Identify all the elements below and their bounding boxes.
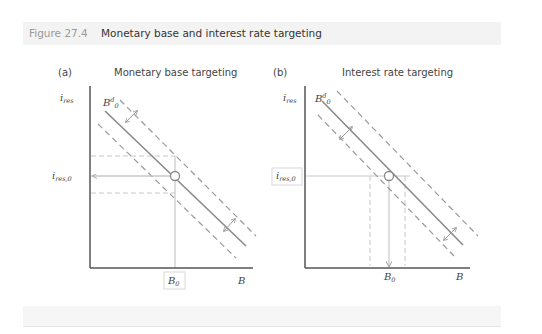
curve-label-bd0: Bd0 — [314, 92, 331, 106]
demand-upper-dashed — [120, 100, 256, 236]
panel-a-letter: (a) — [58, 67, 72, 78]
equilibrium-point-marker — [385, 172, 394, 181]
equilibrium-point-marker — [171, 172, 180, 181]
diagram-canvas: (a) Monetary base targeting ires Bd0 ire… — [0, 0, 542, 334]
x-axis-label: B — [455, 271, 463, 282]
shift-arrow-bottom-icon — [444, 228, 456, 240]
equilibrium-rate-label: ires,0 — [52, 170, 72, 183]
monetary-base-label: B0 — [383, 271, 396, 284]
demand-lower-dashed — [98, 124, 236, 258]
y-axis-label: ires — [60, 92, 74, 105]
panel-b-title: Interest rate targeting — [342, 67, 453, 78]
shift-arrow-top-icon — [340, 127, 352, 139]
shift-arrow-top-icon — [126, 111, 137, 122]
curve-label-bd0: Bd0 — [102, 96, 119, 110]
panel-a-monetary-base-targeting: (a) Monetary base targeting ires Bd0 ire… — [52, 67, 256, 289]
demand-lower-dashed — [318, 115, 456, 258]
panel-b-interest-rate-targeting: (b) Interest rate targeting ires Bd0 ire… — [272, 67, 478, 284]
panel-b-letter: (b) — [273, 67, 287, 78]
demand-upper-dashed — [337, 91, 478, 236]
panel-a-title: Monetary base targeting — [114, 67, 237, 78]
x-axis-label: B — [237, 275, 245, 286]
y-axis-label: ires — [283, 92, 297, 105]
